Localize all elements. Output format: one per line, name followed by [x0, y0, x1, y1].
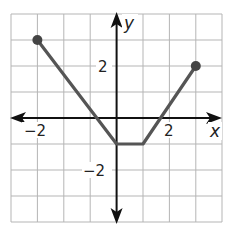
y-tick-label-2: 2	[98, 58, 108, 76]
y-tick-label-neg2: −2	[83, 162, 105, 180]
coordinate-plane: −2 2 x y 2 −2	[0, 0, 232, 226]
x-axis-label: x	[209, 121, 221, 141]
x-tick-label-2: 2	[164, 122, 174, 140]
closed-endpoint-left	[32, 35, 42, 45]
y-axis-label: y	[123, 13, 135, 33]
closed-endpoint-right	[191, 61, 201, 71]
x-tick-label-neg2: −2	[24, 122, 46, 140]
